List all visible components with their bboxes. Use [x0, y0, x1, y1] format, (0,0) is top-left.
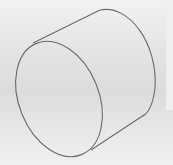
cylinder-model[interactable] [0, 0, 173, 165]
top-silhouette-line [33, 10, 100, 43]
front-face-circle [0, 28, 119, 165]
back-face-arc [100, 9, 155, 116]
bottom-silhouette-line [91, 115, 144, 150]
cad-viewport[interactable] [0, 0, 173, 165]
